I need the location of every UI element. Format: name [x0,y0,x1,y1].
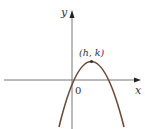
y-axis-arrow-icon [70,10,75,18]
vertex-label: (h, k) [79,47,105,58]
x-axis-arrow-icon [134,78,141,83]
vertex-point [90,60,93,63]
y-axis-label: y [60,6,68,19]
x-axis-label: x [135,84,142,97]
parabola-diagram: y x 0 (h, k) [0,0,145,129]
origin-label: 0 [75,85,81,96]
parabola-curve [59,62,124,128]
